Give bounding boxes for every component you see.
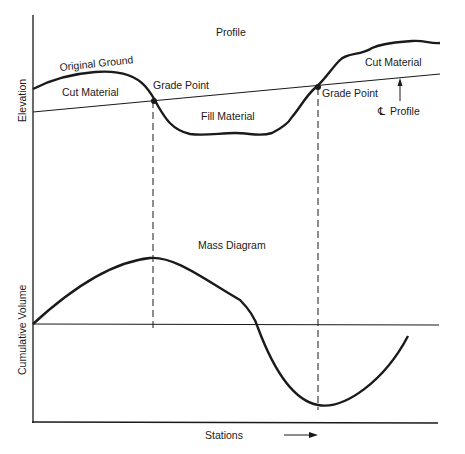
x-axis — [32, 422, 438, 423]
fill-material-label: Fill Material — [201, 111, 255, 122]
cl-profile-arrow-head — [398, 78, 403, 86]
cut-material-left-label: Cut Material — [62, 87, 119, 98]
mass-diagram-curve — [33, 258, 408, 406]
grade-point-left-label: Grade Point — [153, 80, 209, 91]
cl-profile-label: Profile — [390, 106, 420, 117]
stations-axis-label: Stations — [205, 430, 243, 441]
profile-title: Profile — [216, 27, 246, 38]
grade-point-left-marker — [151, 98, 157, 104]
cumulative-volume-axis-label: Cumulative Volume — [17, 285, 28, 375]
grade-point-right-label: Grade Point — [322, 88, 378, 99]
stations-arrow-head — [309, 432, 318, 438]
elevation-axis-label: Elevation — [17, 79, 28, 122]
cl-symbol: ℄ — [378, 106, 385, 117]
mass-diagram-title: Mass Diagram — [198, 240, 266, 251]
cut-material-right-label: Cut Material — [365, 57, 422, 68]
earthwork-diagram: Profile Original Ground Cut Material Gra… — [0, 0, 465, 454]
mass-baseline — [33, 324, 439, 325]
